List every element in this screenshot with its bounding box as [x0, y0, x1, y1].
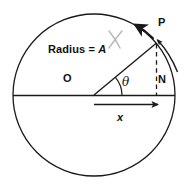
center-label: O — [63, 73, 72, 84]
point-n-label: N — [158, 74, 166, 85]
point-p-label: P — [158, 17, 165, 28]
tangent-curve — [158, 40, 178, 72]
x-mark-icon — [109, 31, 122, 48]
radius-label: Radius = A — [48, 44, 106, 55]
diagram-canvas — [0, 0, 189, 191]
radius-label-prefix: Radius = — [48, 43, 98, 55]
displacement-label: x — [117, 112, 123, 123]
rotation-direction-arc — [136, 25, 153, 38]
angle-label: θ — [122, 76, 129, 88]
circle-diagram: Radius = A O P N θ x — [0, 0, 189, 191]
radius-label-value: A — [98, 43, 106, 55]
